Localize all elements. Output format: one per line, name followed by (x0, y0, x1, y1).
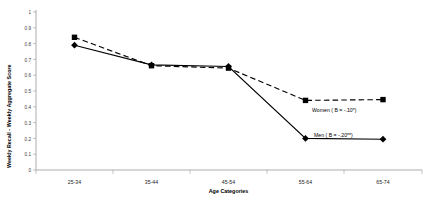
x-tick-label: 45-54 (222, 179, 235, 185)
y-tick-label: 0.5 (25, 89, 32, 94)
x-axis-title: Age Categories (209, 188, 249, 194)
x-tick-label: 35-44 (145, 179, 158, 185)
x-axis-ticks (36, 170, 422, 174)
data-point-women (72, 35, 77, 40)
y-tick-label: 0.4 (25, 105, 32, 110)
data-point-men (71, 42, 78, 49)
y-tick-label: 0.2 (25, 137, 32, 142)
series-annotation-men: Men ( B = -.20**) (314, 132, 353, 138)
data-point-women (380, 97, 385, 102)
series-line-men (75, 45, 384, 139)
series-annotation-women: Women ( B = -.10*) (312, 107, 357, 113)
data-point-men (380, 136, 387, 143)
y-tick-label: 1 (28, 10, 31, 15)
y-tick-label: 0.9 (25, 26, 32, 31)
data-point-women (303, 98, 308, 103)
y-tick-label: 0.3 (25, 121, 32, 126)
y-axis-title: Weekly Recall - Weekly Aggregate Score (6, 64, 12, 168)
x-tick-label: 25-34 (68, 179, 81, 185)
y-tick-label: 0 (28, 168, 31, 173)
x-tick-label: 55-64 (299, 179, 312, 185)
y-tick-label: 0.7 (25, 58, 32, 63)
y-tick-label: 0.6 (25, 73, 32, 78)
y-tick-label: 0.8 (25, 42, 32, 47)
x-tick-label: 65-74 (376, 179, 389, 185)
y-tick-label: 0.1 (25, 152, 32, 157)
line-chart: Weekly Recall - Weekly Aggregate Score 1… (0, 0, 428, 206)
chart-container: Weekly Recall - Weekly Aggregate Score 1… (0, 0, 428, 206)
y-axis-ticks (33, 12, 36, 170)
